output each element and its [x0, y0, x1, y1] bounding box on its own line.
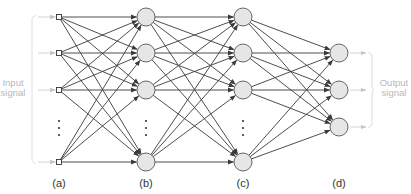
hidden-neuron [234, 81, 252, 99]
ellipsis-dot [58, 134, 60, 136]
layer-label-b: (b) [131, 177, 161, 189]
ellipsis-dot [242, 127, 244, 129]
connection-edge [62, 21, 137, 52]
hidden-neuron [234, 8, 252, 26]
hidden-neuron [234, 153, 252, 171]
neural-network-diagram: Input signal Output signal (a) (b) (c) (… [0, 0, 411, 194]
hidden-neuron [137, 153, 155, 171]
output-brace [368, 52, 374, 128]
hidden-neuron [234, 44, 252, 62]
hidden-neuron [137, 81, 155, 99]
layer-label-d: (d) [324, 177, 354, 189]
input-node [57, 15, 62, 20]
input-signal-line2: signal [0, 88, 26, 98]
ellipsis-dot [145, 120, 147, 122]
layer-label-a: (a) [44, 177, 74, 189]
connection-edge [251, 130, 330, 159]
connection-edge [61, 60, 140, 159]
input-node [57, 51, 62, 56]
layer-label-c: (c) [228, 177, 258, 189]
connection-edges [61, 17, 333, 162]
connection-edge [61, 20, 142, 154]
connection-edge [61, 96, 138, 160]
network-graph [0, 0, 411, 194]
input-signal-label: Input signal [0, 78, 26, 98]
output-neuron [330, 118, 348, 136]
connection-edge [61, 23, 138, 88]
output-neuron [330, 44, 348, 62]
output-signal-label: Output signal [377, 78, 411, 98]
connection-edge [61, 92, 138, 156]
output-neuron [330, 81, 348, 99]
hidden-neuron [137, 8, 155, 26]
output-signal-line2: signal [377, 88, 411, 98]
ellipsis-dot [145, 134, 147, 136]
input-brace [32, 15, 36, 164]
ellipsis-dot [145, 127, 147, 129]
connection-edge [61, 19, 138, 84]
connection-edge [250, 96, 331, 157]
ellipsis-dot [242, 134, 244, 136]
ellipsis-dot [58, 127, 60, 129]
input-node [57, 88, 62, 93]
connection-edge [249, 60, 333, 155]
hidden-neuron [137, 44, 155, 62]
ellipsis-dot [58, 120, 60, 122]
connection-edge [251, 20, 330, 50]
ellipsis-dot [242, 120, 244, 122]
connection-edge [61, 25, 142, 159]
input-node [57, 160, 62, 165]
